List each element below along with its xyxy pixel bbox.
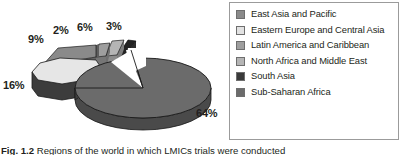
pie-label-64-percent: 64% xyxy=(196,107,217,119)
legend-swatch-icon xyxy=(236,41,245,50)
figure-caption-text: Regions of the world in which LMICs tria… xyxy=(37,145,286,155)
legend-item-label: Latin America and Caribbean xyxy=(251,39,369,51)
legend-item-label: Sub-Saharan Africa xyxy=(251,86,331,98)
legend-item-label: East Asia and Pacific xyxy=(251,8,336,20)
legend-item-north-africa-and-middle-east[interactable]: North Africa and Middle East xyxy=(236,55,394,67)
legend-item-label: Eastern Europe and Central Asia xyxy=(251,24,384,36)
legend-swatch-icon xyxy=(236,26,245,35)
legend-item-south-asia[interactable]: South Asia xyxy=(236,70,394,82)
figure-caption: Fig. 1.2 Regions of the world in which L… xyxy=(1,145,407,155)
pie-label-6-percent: 6% xyxy=(77,21,93,33)
pie-label-2-percent: 2% xyxy=(53,24,69,36)
legend-item-label: North Africa and Middle East xyxy=(251,55,367,67)
chart-legend: East Asia and Pacific Eastern Europe and… xyxy=(229,2,399,140)
pie-label-16-percent: 16% xyxy=(3,79,24,91)
legend-item-label: South Asia xyxy=(251,70,295,82)
pie-label-9-percent: 9% xyxy=(28,33,44,45)
legend-swatch-icon xyxy=(236,88,245,97)
legend-item-eastern-europe-and-central-asia[interactable]: Eastern Europe and Central Asia xyxy=(236,24,394,36)
pie-label-3-percent: 3% xyxy=(106,20,122,32)
legend-swatch-icon xyxy=(236,57,245,66)
legend-item-latin-america-and-caribbean[interactable]: Latin America and Caribbean xyxy=(236,39,394,51)
figure-pie-chart-regions: 9% 2% 6% 3% 16% 64% East Asia and Pacifi… xyxy=(0,0,408,155)
figure-caption-number: Fig. 1.2 xyxy=(1,145,34,155)
legend-item-east-asia-and-pacific[interactable]: East Asia and Pacific xyxy=(236,8,394,20)
legend-swatch-icon xyxy=(236,72,245,81)
legend-swatch-icon xyxy=(236,10,245,19)
legend-item-sub-saharan-africa[interactable]: Sub-Saharan Africa xyxy=(236,86,394,98)
pie-chart: 9% 2% 6% 3% 16% 64% xyxy=(0,0,228,142)
